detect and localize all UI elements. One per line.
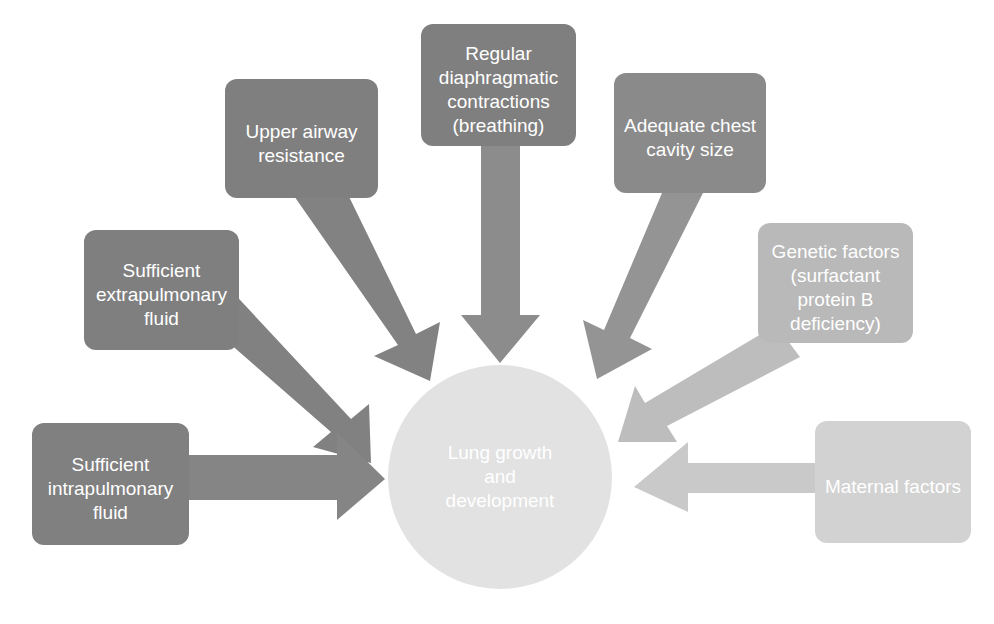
arrow-upper-airway-resistance-to-hub — [292, 170, 440, 381]
node-sufficient-intrapulmonary-fluid[interactable]: Sufficientintrapulmonaryfluid — [32, 423, 189, 545]
label-line: Adequate chest — [624, 115, 757, 136]
node-adequate-chest-cavity-size[interactable]: Adequate chestcavity size — [614, 73, 766, 193]
label-line: Maternal factors — [825, 476, 961, 497]
label-line: protein B — [797, 289, 873, 310]
label-line: (breathing) — [453, 115, 545, 136]
label-line: (surfactant — [791, 265, 881, 286]
label-line: diaphragmatic — [439, 67, 558, 88]
label-line: development — [446, 490, 556, 511]
label-line: Upper airway — [246, 121, 358, 142]
node-genetic-factors[interactable]: Genetic factors(surfactantprotein Bdefic… — [758, 223, 913, 343]
node-regular-diaphragmatic-contractions[interactable]: Regulardiaphragmaticcontractions(breathi… — [421, 24, 576, 146]
label-line: fluid — [93, 502, 128, 523]
label-line: Regular — [465, 43, 532, 64]
label-line: extrapulmonary — [96, 284, 227, 305]
node-upper-airway-resistance[interactable]: Upper airwayresistance — [225, 79, 378, 198]
node-label: Maternal factors — [825, 476, 961, 497]
label-line: cavity size — [646, 139, 734, 160]
label-line: Sufficient — [72, 454, 151, 475]
hub-node: Lung growthanddevelopment — [388, 365, 612, 589]
lung-development-diagram: Lung growthanddevelopment Regulardiaphra… — [0, 0, 994, 624]
label-line: and — [484, 466, 516, 487]
label-line: fluid — [144, 308, 179, 329]
label-line: intrapulmonary — [48, 478, 174, 499]
label-line: Lung growth — [448, 442, 553, 463]
arrow-adequate-chest-cavity-size-to-hub — [583, 193, 703, 379]
label-line: contractions — [447, 91, 549, 112]
diagram-canvas: Lung growthanddevelopment Regulardiaphra… — [0, 0, 994, 624]
arrow-regular-diaphragmatic-contractions-to-hub — [461, 146, 540, 363]
node-maternal-factors[interactable]: Maternal factors — [815, 421, 971, 543]
label-line: Genetic factors — [772, 241, 900, 262]
label-line: Sufficient — [123, 260, 202, 281]
label-line: deficiency) — [790, 313, 881, 334]
arrow-maternal-factors-to-hub — [634, 442, 818, 512]
label-line: resistance — [258, 145, 345, 166]
node-sufficient-extrapulmonary-fluid[interactable]: Sufficientextrapulmonaryfluid — [84, 230, 239, 350]
